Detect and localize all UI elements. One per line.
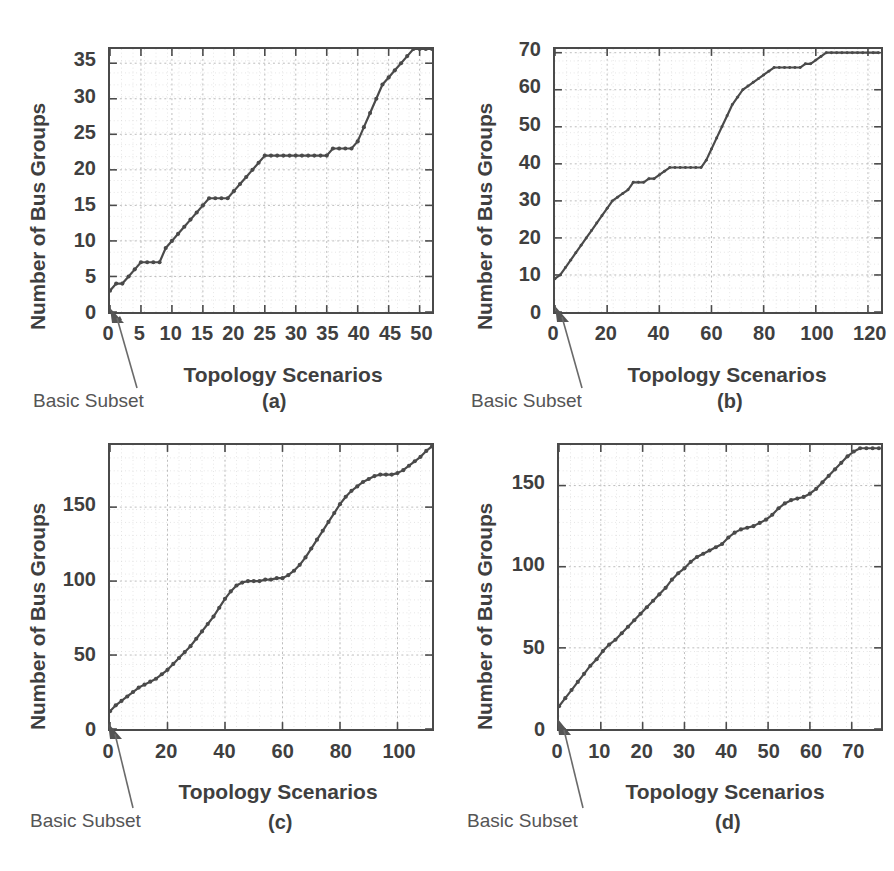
x-tick-a-10: 50 [397,322,445,345]
subplot-a: Number of Bus Groups 05101520253035 0510… [0,0,447,430]
y-tick-d-1: 50 [489,636,545,659]
plot-area-d [557,443,883,731]
y-tick-b-2: 20 [485,226,541,249]
panel-tag-d: (d) [715,811,741,834]
x-tick-c-0: 0 [84,740,132,763]
y-tick-b-0: 0 [485,301,541,324]
annotation-label-b: Basic Subset [471,390,582,412]
y-tick-b-3: 30 [485,188,541,211]
x-tick-d-7: 70 [829,740,877,763]
data-curve-d [559,445,881,729]
y-tick-d-3: 150 [489,471,545,494]
annotation-label-d: Basic Subset [467,810,578,832]
x-tick-c-1: 20 [142,740,190,763]
panel-tag-b: (b) [717,390,743,413]
figure-root: Number of Bus Groups 05101520253035 0510… [0,0,894,871]
y-tick-a-0: 0 [40,301,96,324]
y-tick-d-0: 0 [489,718,545,741]
y-tick-a-4: 20 [40,157,96,180]
y-tick-b-1: 10 [485,263,541,286]
y-tick-a-6: 30 [40,85,96,108]
y-tick-a-5: 25 [40,121,96,144]
x-tick-d-5: 50 [745,740,793,763]
y-tick-d-2: 100 [489,553,545,576]
x-axis-label-c: Topology Scenarios [158,780,398,804]
subplot-c: Number of Bus Groups 050100150 020406080… [0,430,447,871]
x-tick-d-3: 30 [660,740,708,763]
subplot-d: Number of Bus Groups 050100150 010203040… [447,430,894,871]
y-axis-label-b: Number of Bus Groups [473,103,497,330]
y-tick-b-6: 60 [485,75,541,98]
plot-area-c [108,443,434,731]
subplot-b: Number of Bus Groups 010203040506070 020… [447,0,894,430]
x-tick-d-0: 0 [533,740,581,763]
y-tick-b-5: 50 [485,113,541,136]
x-axis-label-d: Topology Scenarios [605,780,845,804]
panel-tag-a: (a) [262,390,286,413]
x-tick-c-3: 60 [259,740,307,763]
x-tick-c-2: 40 [200,740,248,763]
y-tick-c-2: 100 [40,568,96,591]
x-axis-label-b: Topology Scenarios [607,363,847,387]
data-curve-a [110,49,432,312]
data-curve-b [555,49,881,312]
panel-tag-c: (c) [268,811,292,834]
y-tick-c-3: 150 [40,493,96,516]
y-tick-c-0: 0 [40,718,96,741]
annotation-label-c: Basic Subset [30,810,141,832]
y-tick-a-3: 15 [40,193,96,216]
x-tick-d-4: 40 [702,740,750,763]
y-tick-c-1: 50 [40,643,96,666]
x-axis-label-a: Topology Scenarios [163,363,403,387]
x-tick-d-6: 60 [787,740,835,763]
x-tick-b-6: 120 [846,322,894,345]
plot-area-a [108,47,434,314]
plot-area-b [553,47,883,314]
x-tick-d-1: 10 [575,740,623,763]
data-curve-c [110,445,432,729]
y-tick-a-2: 10 [40,229,96,252]
x-tick-b-0: 0 [529,322,577,345]
x-tick-b-3: 60 [687,322,735,345]
y-tick-b-4: 40 [485,151,541,174]
y-tick-a-1: 5 [40,265,96,288]
y-tick-b-7: 70 [485,38,541,61]
x-tick-d-2: 20 [618,740,666,763]
x-tick-b-5: 100 [793,322,841,345]
y-axis-label-c: Number of Bus Groups [26,503,50,730]
x-tick-c-5: 100 [375,740,423,763]
x-tick-b-4: 80 [740,322,788,345]
x-tick-b-2: 40 [635,322,683,345]
x-tick-c-4: 80 [317,740,365,763]
y-tick-a-7: 35 [40,48,96,71]
annotation-label-a: Basic Subset [33,390,144,412]
x-tick-b-1: 20 [582,322,630,345]
y-axis-label-d: Number of Bus Groups [473,503,497,730]
